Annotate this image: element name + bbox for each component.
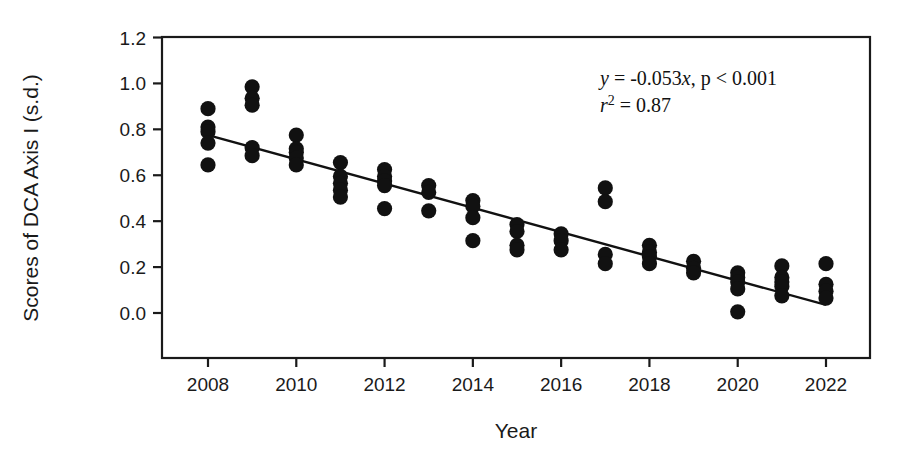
scatter-plot: 0.00.20.40.60.81.01.2 200820102012201420… [0, 0, 920, 462]
data-point [686, 265, 701, 280]
data-point [377, 178, 392, 193]
data-point [245, 148, 260, 163]
data-point [200, 136, 215, 151]
data-point [509, 242, 524, 257]
data-point [465, 210, 480, 225]
y-tick-label: 0.4 [120, 211, 147, 232]
data-point [554, 242, 569, 257]
data-point [598, 256, 613, 271]
x-tick-label: 2022 [805, 374, 847, 395]
r2-value: = 0.87 [615, 94, 671, 116]
data-point [200, 157, 215, 172]
data-point [730, 304, 745, 319]
x-tick-label: 2014 [452, 374, 495, 395]
equation-x-symbol: x [681, 67, 691, 89]
y-tick-label: 1.0 [120, 73, 146, 94]
data-point [642, 256, 657, 271]
data-point [465, 233, 480, 248]
data-point [818, 256, 833, 271]
x-tick-label: 2010 [275, 374, 317, 395]
equation-body: = -0.053 [609, 67, 682, 89]
data-point [774, 288, 789, 303]
equation-pvalue: , p < 0.001 [691, 67, 777, 90]
r2-exponent: 2 [608, 93, 615, 108]
y-tick-label: 1.2 [120, 28, 146, 49]
data-point [245, 98, 260, 113]
x-tick-label: 2012 [363, 374, 405, 395]
data-point [421, 185, 436, 200]
data-point [289, 157, 304, 172]
data-point [377, 201, 392, 216]
y-axis-title: Scores of DCA Axis I (s.d.) [19, 74, 42, 321]
y-tick-label: 0.8 [120, 119, 146, 140]
regression-equation-annotation: y = -0.053x, p < 0.001 [598, 67, 777, 90]
y-axis-tick-labels: 0.00.20.40.60.81.01.2 [120, 28, 147, 325]
data-point [598, 180, 613, 195]
x-tick-label: 2016 [540, 374, 582, 395]
data-point [421, 203, 436, 218]
data-point [289, 127, 304, 142]
figure-container: 0.00.20.40.60.81.01.2 200820102012201420… [0, 0, 920, 462]
data-point [333, 155, 348, 170]
data-point [598, 194, 613, 209]
y-tick-label: 0.2 [120, 257, 146, 278]
data-point-group [200, 79, 833, 319]
y-tick-label: 0.0 [120, 303, 146, 324]
r-squared-annotation: r2 = 0.87 [600, 93, 671, 116]
r2-symbol: r [600, 94, 608, 116]
data-point [818, 290, 833, 305]
x-axis-ticks [208, 358, 826, 367]
equation-y-symbol: y [598, 67, 609, 90]
data-point [509, 224, 524, 239]
x-tick-label: 2018 [628, 374, 670, 395]
y-axis-ticks [153, 38, 162, 314]
x-axis-tick-labels: 20082010201220142016201820202022 [187, 374, 847, 395]
data-point [333, 189, 348, 204]
x-tick-label: 2020 [717, 374, 759, 395]
data-point [200, 101, 215, 116]
x-tick-label: 2008 [187, 374, 229, 395]
data-point [730, 281, 745, 296]
y-tick-label: 0.6 [120, 165, 146, 186]
x-axis-title: Year [495, 419, 537, 442]
